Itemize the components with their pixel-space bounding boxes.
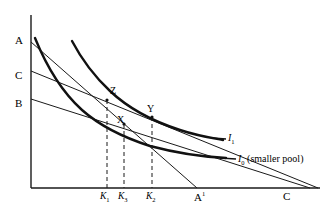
tick-label-k1-sub: 1 xyxy=(106,196,109,203)
point-label-x: X xyxy=(117,115,124,125)
indifference-curve-i0 xyxy=(35,38,226,158)
economics-diagram: A C B A1 C Z X Y K1 K3 K2 I1 I0 (smaller… xyxy=(0,0,331,220)
leader-line-i1 xyxy=(213,138,226,139)
tick-label-k2: K2 xyxy=(146,192,156,203)
y-intercept-label-a: A xyxy=(15,35,23,46)
point-marker-z xyxy=(105,98,108,101)
x-intercept-label-a-prime: A1 xyxy=(194,191,205,203)
indifference-curve-i1 xyxy=(72,41,223,140)
tick-label-k1: K1 xyxy=(100,192,110,203)
budget-line-b-c xyxy=(31,99,310,188)
point-label-z: Z xyxy=(110,86,116,96)
x-intercept-label-c: C xyxy=(283,191,290,202)
budget-line-c-c xyxy=(31,71,318,188)
point-marker-y xyxy=(150,115,153,118)
tick-label-k3-sub: 3 xyxy=(124,196,127,203)
point-label-y: Y xyxy=(147,104,154,114)
x-intercept-a-prime-sup: 1 xyxy=(202,190,205,197)
curve-label-i1: I1 xyxy=(228,133,235,146)
diagram-canvas xyxy=(0,0,331,220)
tick-label-k2-sub: 2 xyxy=(152,196,155,203)
x-intercept-a-prime-base: A xyxy=(194,191,202,203)
budget-line-a-aprime xyxy=(31,42,197,188)
curve-label-i0: I0 (smaller pool) xyxy=(238,154,303,167)
leader-line-i0 xyxy=(220,158,236,159)
y-intercept-label-c: C xyxy=(15,70,22,81)
tick-label-k3: K3 xyxy=(118,192,128,203)
y-intercept-label-b: B xyxy=(15,98,22,109)
curve-label-i0-suffix: (smaller pool) xyxy=(245,153,304,164)
curve-label-i1-sub: 1 xyxy=(231,138,234,145)
